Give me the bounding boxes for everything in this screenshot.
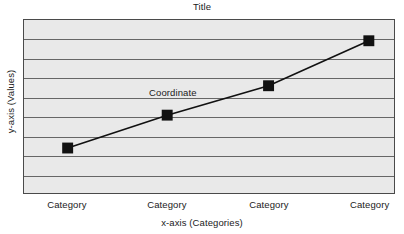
data-point-marker[interactable] [162,110,173,121]
chart-title: Title [0,1,404,12]
x-axis-label: x-axis (Categories) [0,217,404,228]
data-point-marker[interactable] [363,35,374,46]
data-point-marker[interactable] [263,80,274,91]
chart-container: Title Coordinate y-axis (Values) Categor… [0,0,404,234]
x-tick-label: Category [47,199,86,210]
data-point-marker[interactable] [62,143,73,154]
annotation-coordinate: Coordinate [149,86,196,97]
plot-area: Coordinate [23,19,395,194]
x-tick-label: Category [350,199,389,210]
y-axis-label: y-axis (Values) [5,54,16,150]
x-tick-label: Category [249,199,288,210]
series-line [68,41,369,148]
x-tick-label: Category [147,199,186,210]
data-series-line [24,20,394,193]
